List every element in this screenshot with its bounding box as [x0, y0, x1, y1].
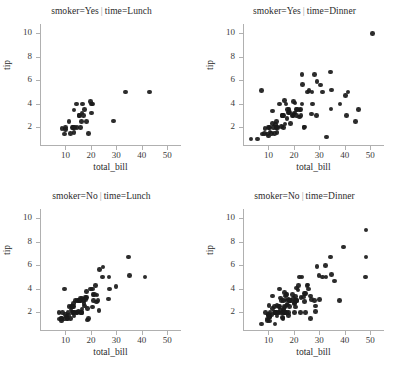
scatter-point — [267, 319, 272, 324]
scatter-point — [82, 107, 87, 112]
scatter-point — [300, 82, 305, 87]
scatter-points-layer — [203, 0, 406, 185]
scatter-point — [296, 283, 301, 288]
scatter-point — [283, 122, 288, 127]
scatter-point — [298, 107, 303, 112]
scatter-point — [344, 113, 349, 118]
scatter-point — [96, 298, 101, 303]
scatter-point — [329, 272, 334, 277]
scatter-point — [71, 304, 76, 309]
scatter-point — [79, 119, 84, 124]
scatter-point — [318, 83, 323, 88]
scatter-point — [324, 135, 329, 140]
scatter-point — [285, 292, 290, 297]
scatter-point — [312, 72, 317, 77]
scatter-point — [292, 310, 297, 315]
scatter-point — [106, 297, 111, 302]
scatter-point — [107, 275, 112, 280]
scatter-point — [63, 125, 68, 130]
scatter-point — [300, 102, 305, 107]
scatter-point — [329, 88, 334, 93]
scatter-point — [288, 121, 293, 126]
scatter-point — [123, 90, 128, 95]
scatter-point — [72, 130, 77, 135]
scatter-point — [309, 112, 314, 117]
scatter-point — [303, 310, 308, 315]
scatter-point — [90, 305, 95, 310]
scatter-point — [62, 287, 67, 292]
scatter-point — [341, 245, 346, 250]
scatter-point — [302, 125, 307, 130]
scatter-point — [286, 310, 291, 315]
scatter-points-layer — [0, 185, 203, 370]
scatter-point — [281, 316, 286, 321]
scatter-point — [255, 137, 260, 142]
scatter-point — [308, 316, 313, 321]
scatter-point — [310, 90, 315, 95]
scatter-point — [147, 90, 152, 95]
scatter-point — [293, 305, 298, 310]
scatter-point — [90, 102, 95, 107]
facet-panel-smoker-no-lunch: smoker=No|time=Lunch2468101020304050tota… — [0, 185, 203, 370]
scatter-point — [111, 119, 116, 124]
scatter-point — [80, 310, 85, 315]
scatter-point — [303, 291, 308, 296]
scatter-point — [299, 113, 304, 118]
scatter-point — [323, 263, 328, 268]
scatter-point — [274, 119, 279, 124]
scatter-point — [328, 70, 333, 75]
facet-panel-smoker-no-dinner: smoker=No|time=Dinner2468101020304050tot… — [203, 185, 406, 370]
scatter-point — [306, 287, 311, 292]
scatter-point — [100, 275, 105, 280]
scatter-point — [107, 287, 112, 292]
scatter-point — [337, 298, 342, 303]
scatter-point — [72, 108, 77, 113]
scatter-point — [127, 273, 132, 278]
scatter-point — [270, 294, 275, 299]
facet-grid-figure: smoker=Yes|time=Lunch2468101020304050tot… — [0, 0, 407, 371]
facet-panel-smoker-yes-dinner: smoker=Yes|time=Dinner2468101020304050to… — [203, 0, 406, 185]
scatter-point — [126, 255, 131, 260]
scatter-point — [95, 293, 100, 298]
scatter-point — [74, 102, 79, 107]
scatter-point — [296, 288, 301, 293]
scatter-point — [270, 109, 275, 114]
scatter-point — [346, 90, 351, 95]
scatter-point — [287, 304, 292, 309]
scatter-points-layer — [203, 185, 406, 370]
scatter-point — [84, 295, 89, 300]
scatter-point — [84, 119, 89, 124]
scatter-point — [315, 264, 320, 269]
scatter-point — [364, 255, 369, 260]
scatter-point — [353, 119, 358, 124]
scatter-point — [277, 287, 282, 292]
scatter-point — [363, 275, 368, 280]
scatter-point — [97, 308, 102, 313]
scatter-point — [284, 102, 289, 107]
scatter-point — [324, 275, 329, 280]
scatter-point — [277, 102, 282, 107]
scatter-point — [86, 316, 91, 321]
scatter-point — [78, 125, 83, 130]
scatter-point — [300, 72, 305, 77]
scatter-point — [89, 111, 94, 116]
scatter-point — [62, 132, 67, 137]
scatter-point — [259, 88, 264, 93]
scatter-point — [101, 265, 106, 270]
scatter-point — [81, 113, 86, 118]
scatter-point — [329, 107, 334, 112]
scatter-point — [275, 130, 280, 135]
scatter-point — [313, 304, 318, 309]
scatter-point — [312, 298, 317, 303]
scatter-point — [259, 322, 264, 327]
scatter-point — [293, 101, 298, 106]
scatter-point — [332, 279, 337, 284]
scatter-point — [300, 275, 305, 280]
facet-panel-smoker-yes-lunch: smoker=Yes|time=Lunch2468101020304050tot… — [0, 0, 203, 185]
scatter-point — [85, 306, 90, 311]
scatter-point — [143, 275, 148, 280]
scatter-point — [93, 283, 98, 288]
scatter-point — [314, 113, 319, 118]
scatter-point — [273, 322, 278, 327]
scatter-point — [320, 90, 325, 95]
